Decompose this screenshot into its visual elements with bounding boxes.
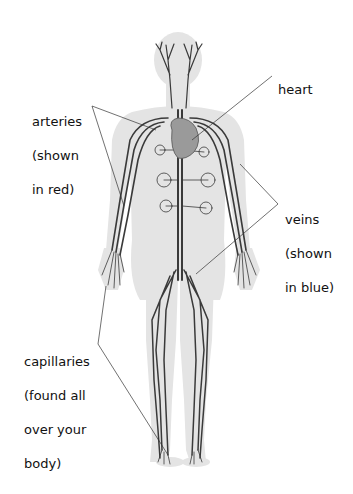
capillaries-label-line: (found all [24, 387, 90, 404]
heart-label-line: heart [278, 81, 313, 98]
capillaries-label-line: capillaries [24, 353, 90, 370]
veins-label-line: in blue) [285, 279, 334, 296]
capillaries-label-line: body) [24, 455, 90, 472]
arteries-label-line: (shown [32, 147, 82, 164]
arteries-label-line: arteries [32, 113, 82, 130]
veins-label: veins (shown in blue) [285, 194, 334, 313]
arteries-label-line: in red) [32, 181, 82, 198]
veins-label-line: (shown [285, 245, 334, 262]
heart-label: heart [278, 64, 313, 115]
capillaries-label: capillaries (found all over your body) [24, 336, 90, 489]
right-leg [180, 280, 214, 462]
right-foot [182, 457, 210, 467]
capillaries-label-line: over your [24, 421, 90, 438]
capillaries-leader-1 [98, 286, 106, 344]
arteries-label: arteries (shown in red) [32, 96, 82, 215]
head [154, 32, 202, 88]
veins-label-line: veins [285, 211, 334, 228]
